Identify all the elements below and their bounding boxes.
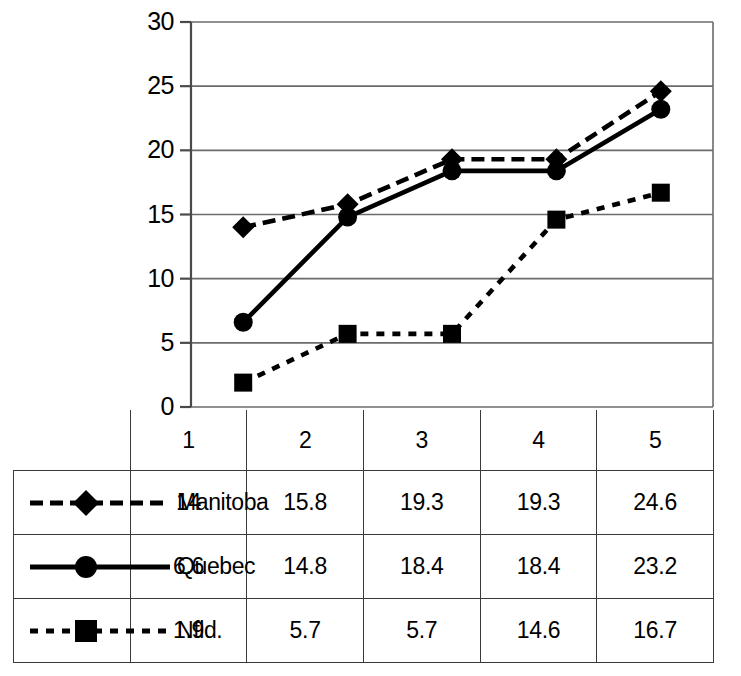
x-axis-category-label-3: 3 <box>363 410 480 471</box>
series-line-Nfld. <box>243 193 661 383</box>
data-table: 12345Manitoba1415.819.319.324.6Quebec6.6… <box>13 410 714 663</box>
table-cell: 16.7 <box>597 599 714 663</box>
table-header-corner <box>14 410 131 471</box>
legend-row-manitoba: Manitoba <box>14 471 131 535</box>
plot-area: 051015202530 <box>0 0 741 412</box>
table-cell: 24.6 <box>597 471 714 535</box>
table-cell: 23.2 <box>597 535 714 599</box>
legend-swatch-Nfld. <box>24 617 176 645</box>
table-cell: 18.4 <box>363 535 480 599</box>
table-row: Quebec6.614.818.418.423.2 <box>14 535 714 599</box>
x-axis-category-label-2: 2 <box>247 410 364 471</box>
series-quebec <box>234 100 671 332</box>
table-cell: 18.4 <box>480 535 597 599</box>
y-tick-label-25: 25 <box>110 73 174 98</box>
y-tick-label-10: 10 <box>110 266 174 291</box>
marker-diamond-Manitoba-1 <box>232 216 254 238</box>
marker-circle-Quebec-4 <box>547 161 566 180</box>
marker-square-Nfld.-1 <box>234 374 252 392</box>
chart-figure: 051015202530 12345Manitoba1415.819.319.3… <box>0 0 741 676</box>
table-cell: 14.8 <box>247 535 364 599</box>
marker-square-Nfld.-3 <box>443 325 461 343</box>
legend-swatch-Manitoba <box>24 489 176 517</box>
marker-square-Nfld.-4 <box>547 211 565 229</box>
x-axis-category-label-4: 4 <box>480 410 597 471</box>
marker-circle-Quebec-3 <box>443 161 462 180</box>
table-row: Nfld.1.95.75.714.616.7 <box>14 599 714 663</box>
marker-circle-Quebec-5 <box>651 100 670 119</box>
legend-marker-diamond <box>73 490 99 516</box>
table-cell: 14.6 <box>480 599 597 663</box>
marker-diamond-Manitoba-5 <box>650 80 672 102</box>
table-row: Manitoba1415.819.319.324.6 <box>14 471 714 535</box>
x-axis-category-label-5: 5 <box>597 410 714 471</box>
marker-circle-Quebec-2 <box>338 208 357 227</box>
marker-circle-Quebec-1 <box>234 313 253 332</box>
table-cell: 5.7 <box>363 599 480 663</box>
marker-square-Nfld.-2 <box>339 325 357 343</box>
y-tick-label-20: 20 <box>110 137 174 162</box>
y-tick-label-15: 15 <box>110 202 174 227</box>
legend-row-nfld: Nfld. <box>14 599 131 663</box>
legend-marker-square <box>75 620 97 642</box>
legend-row-quebec: Quebec <box>14 535 131 599</box>
gridlines <box>191 22 713 407</box>
y-tick-label-5: 5 <box>110 330 174 355</box>
table-header-row: 12345 <box>14 410 714 471</box>
x-axis-category-label-1: 1 <box>130 410 247 471</box>
legend-marker-circle <box>75 556 97 578</box>
table-cell: 5.7 <box>247 599 364 663</box>
table-cell: 19.3 <box>480 471 597 535</box>
y-tick-label-30: 30 <box>110 9 174 34</box>
legend-swatch-Quebec <box>24 553 176 581</box>
marker-square-Nfld.-5 <box>652 184 670 202</box>
table-cell: 19.3 <box>363 471 480 535</box>
y-axis-ticks <box>180 22 191 407</box>
